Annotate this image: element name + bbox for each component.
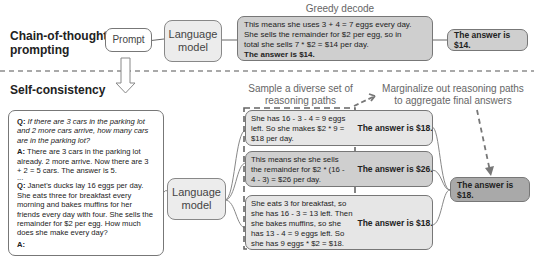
q2-text: Janet's ducks lay 16 eggs per day. She e…	[17, 181, 153, 237]
path-row-2: This means she she sells the remainder f…	[245, 151, 433, 187]
final-answer-box: The answer is $18.	[450, 177, 530, 202]
greedy-line-2: She sells the remainder for $2 per egg, …	[244, 30, 426, 40]
path-2-answer: The answer is $26.	[356, 152, 434, 186]
greedy-reasoning-box: This means she uses 3 + 4 = 7 eggs every…	[237, 16, 433, 61]
path-3-answer: The answer is $18.	[356, 196, 434, 249]
path-1-answer: The answer is $18.	[356, 111, 434, 145]
path-row-3: She eats 3 for breakfast, so she has 16 …	[245, 195, 433, 250]
sc-language-model-box: Language model	[167, 178, 226, 220]
sc-section-label: Self-consistency	[10, 83, 120, 97]
path-row-1: She has 16 - 3 - 4 = 9 eggs left. So she…	[245, 110, 433, 146]
a1-label: A:	[17, 147, 25, 156]
q1-label: Q:	[17, 117, 25, 126]
a1-text: There are 3 cars in the parking lot alre…	[17, 147, 149, 175]
cot-answer-box: The answer is $14.	[447, 29, 528, 51]
q1-text: If there are 3 cars in the parking lot a…	[17, 117, 148, 145]
arrow-head-icon	[485, 166, 494, 176]
prompt-box: Prompt	[105, 28, 152, 52]
marginalize-caption: Marginalize out reasoning paths to aggre…	[378, 83, 528, 107]
path-2-reasoning: This means she she sells the remainder f…	[251, 155, 351, 185]
greedy-line-answer: The answer is $14.	[244, 50, 426, 60]
sample-caption: Sample a diverse set of reasoning paths	[248, 83, 353, 107]
q2-label: Q:	[17, 181, 25, 190]
path-1-reasoning: She has 16 - 3 - 4 = 9 eggs left. So she…	[251, 114, 351, 144]
greedy-line-1: This means she uses 3 + 4 = 7 eggs every…	[244, 20, 426, 30]
a2-label: A:	[17, 240, 155, 249]
cot-section-label: Chain-of-thought prompting	[10, 29, 110, 57]
sc-prompt-box: Q: If there are 3 cars in the parking lo…	[8, 110, 164, 256]
path-3-reasoning: She eats 3 for breakfast, so she has 16 …	[251, 199, 353, 249]
greedy-decode-caption: Greedy decode	[300, 3, 380, 15]
greedy-line-3: total she sells 7 * $2 = $14 per day.	[244, 40, 426, 50]
cot-language-model-box: Language model	[164, 20, 222, 62]
